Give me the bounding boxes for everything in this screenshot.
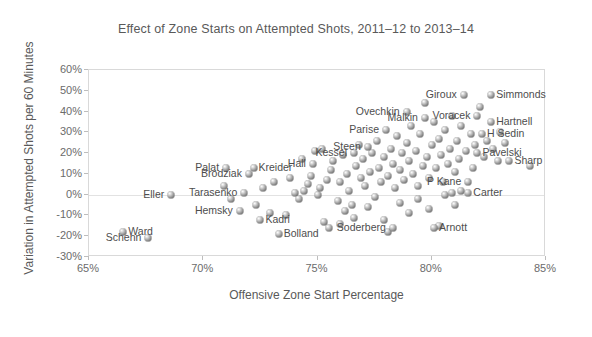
- data-point-labeled: [275, 231, 282, 238]
- data-point: [415, 183, 422, 190]
- data-point-labeled: [236, 208, 243, 215]
- data-point: [389, 160, 396, 167]
- data-point-label: Steen: [333, 140, 360, 151]
- data-point: [408, 123, 415, 130]
- data-point: [367, 168, 374, 175]
- data-point-label: Brodziak: [201, 167, 242, 178]
- data-point: [371, 193, 378, 200]
- data-point-labeled: [474, 150, 481, 157]
- y-axis-tick-label: 40%: [42, 105, 82, 117]
- data-point: [328, 166, 335, 173]
- x-axis-title: Offensive Zone Start Percentage: [88, 288, 545, 302]
- data-point: [453, 137, 460, 144]
- y-axis-tick-label: 10%: [42, 167, 82, 179]
- data-point: [341, 208, 348, 215]
- data-point-labeled: [488, 118, 495, 125]
- data-point: [495, 158, 502, 165]
- y-axis-tick-label: 0%: [42, 188, 82, 200]
- data-point-label: Sharp: [514, 155, 542, 166]
- data-point-label: Malkin: [388, 111, 418, 122]
- x-axis-tick-mark: [317, 256, 318, 260]
- data-point-label: Voracek: [432, 109, 470, 120]
- data-point: [399, 150, 406, 157]
- x-axis-tick-mark: [545, 256, 546, 260]
- x-axis-tick-label: 65%: [60, 262, 116, 274]
- data-point: [360, 156, 367, 163]
- data-point: [252, 202, 259, 209]
- data-point: [412, 148, 419, 155]
- x-axis-tick-mark: [202, 256, 203, 260]
- data-point-labeled: [168, 191, 175, 198]
- data-point: [405, 158, 412, 165]
- data-point: [458, 123, 465, 130]
- data-point: [307, 172, 314, 179]
- data-point-labeled: [364, 143, 371, 150]
- data-point: [405, 210, 412, 217]
- data-point-label: Eller: [143, 188, 164, 199]
- y-axis-title: Variation in Attempted Shots per 60 Minu…: [22, 28, 36, 288]
- data-point-labeled: [250, 164, 257, 171]
- data-point-label: Arnott: [439, 221, 467, 232]
- data-point-label: Bolland: [284, 228, 319, 239]
- data-point: [442, 127, 449, 134]
- data-point: [376, 164, 383, 171]
- data-point: [433, 164, 440, 171]
- data-point: [476, 104, 483, 111]
- data-point: [385, 172, 392, 179]
- data-point: [410, 170, 417, 177]
- data-point-label: Hemsky: [195, 205, 233, 216]
- x-axis-tick-label: 80%: [403, 262, 459, 274]
- data-point: [403, 139, 410, 146]
- data-point: [344, 170, 351, 177]
- data-point: [378, 179, 385, 186]
- data-point-labeled: [465, 189, 472, 196]
- data-point: [428, 141, 435, 148]
- data-point-labeled: [309, 160, 316, 167]
- data-point: [348, 202, 355, 209]
- data-point-labeled: [506, 158, 513, 165]
- data-point-label: Kadri: [265, 213, 290, 224]
- data-point: [456, 156, 463, 163]
- data-point-label: H Sedin: [487, 128, 524, 139]
- y-axis-tick-label: -10%: [42, 208, 82, 220]
- data-point-label: P Kane: [427, 176, 461, 187]
- data-point: [314, 191, 321, 198]
- data-point: [396, 199, 403, 206]
- data-point: [325, 224, 332, 231]
- data-point: [415, 195, 422, 202]
- data-point: [401, 177, 408, 184]
- data-point: [472, 141, 479, 148]
- data-point-labeled: [421, 114, 428, 121]
- data-point-labeled: [479, 131, 486, 138]
- data-point: [271, 179, 278, 186]
- y-axis-tick-label: -30%: [42, 250, 82, 262]
- data-point: [300, 187, 307, 194]
- data-point: [424, 154, 431, 161]
- data-point-label: Simmonds: [496, 88, 546, 99]
- data-point-labeled: [389, 224, 396, 231]
- data-point: [387, 145, 394, 152]
- data-point: [444, 160, 451, 167]
- y-axis-tick-label: 50%: [42, 84, 82, 96]
- x-axis-tick-label: 70%: [174, 262, 230, 274]
- y-axis-tick-label: -20%: [42, 229, 82, 241]
- data-point-label: Parise: [349, 124, 379, 135]
- data-point: [369, 150, 376, 157]
- data-point: [396, 166, 403, 173]
- data-point: [305, 181, 312, 188]
- data-point: [469, 164, 476, 171]
- data-point: [373, 137, 380, 144]
- data-point-labeled: [431, 224, 438, 231]
- y-axis-tick-label: 30%: [42, 125, 82, 137]
- data-point: [323, 177, 330, 184]
- data-point-label: Soderberg: [337, 221, 386, 232]
- data-point-labeled: [241, 189, 248, 196]
- y-axis-tick-label: 60%: [42, 63, 82, 75]
- data-point: [421, 100, 428, 107]
- x-axis-tick-label: 75%: [289, 262, 345, 274]
- data-point-label: Hartnell: [496, 115, 532, 126]
- data-point: [419, 162, 426, 169]
- data-point: [392, 185, 399, 192]
- data-point-label: Carter: [473, 186, 502, 197]
- data-point: [437, 152, 444, 159]
